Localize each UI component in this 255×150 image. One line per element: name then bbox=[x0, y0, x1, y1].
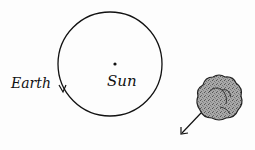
cloud-blob bbox=[197, 75, 242, 120]
sun-dot bbox=[113, 62, 116, 65]
earth-label: Earth bbox=[10, 75, 51, 91]
sun-label: Sun bbox=[107, 72, 137, 90]
earth-orbit bbox=[58, 12, 162, 116]
diagram-canvas: Sun Earth bbox=[0, 0, 255, 150]
cloud-motion-arrow bbox=[182, 113, 201, 133]
